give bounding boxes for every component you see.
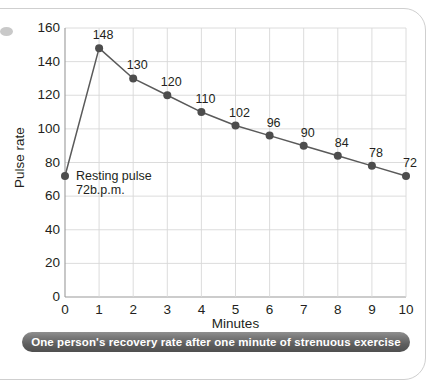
chart-line-series [65,28,406,297]
x-axis-label: Minutes [65,316,406,331]
x-tick-label: 2 [120,303,146,317]
x-tick-label: 10 [393,303,419,317]
y-tick-label: 0 [16,290,60,304]
x-tick-label: 1 [86,303,112,317]
point-value-label: 102 [229,107,250,120]
point-value-label: 120 [161,76,182,89]
point-value-label: 110 [195,93,215,106]
y-tick-label: 120 [16,88,60,102]
point-value-label: 130 [127,59,148,72]
annotation-line-1: Resting pulse [76,170,152,184]
x-tick-label: 6 [257,303,283,317]
y-tick-label: 40 [16,223,60,237]
chart-plot-area [65,28,406,297]
annotation-line-2: 72b.p.m. [76,184,152,198]
point-value-label: 72 [403,157,417,170]
x-tick-label: 7 [291,303,317,317]
y-tick-label: 80 [16,156,60,170]
x-tick-label: 0 [52,303,78,317]
x-tick-label: 3 [154,303,180,317]
point-value-label: 78 [369,147,383,160]
x-tick-label: 4 [188,303,214,317]
y-axis-ticks: 020406080100120140160 [12,28,60,297]
point-value-label: 148 [93,29,114,42]
y-tick-label: 160 [16,21,60,35]
point-value-label: 90 [301,127,315,140]
point-value-label: 84 [335,137,349,150]
x-tick-label: 5 [223,303,249,317]
x-tick-label: 9 [359,303,385,317]
y-tick-label: 20 [16,256,60,270]
x-tick-label: 8 [325,303,351,317]
resting-pulse-annotation: Resting pulse 72b.p.m. [76,170,152,197]
y-tick-label: 60 [16,189,60,203]
point-value-label: 96 [267,117,281,130]
chart-caption: One person's recovery rate after one min… [22,332,410,352]
y-tick-label: 100 [16,122,60,136]
y-tick-label: 140 [16,55,60,69]
